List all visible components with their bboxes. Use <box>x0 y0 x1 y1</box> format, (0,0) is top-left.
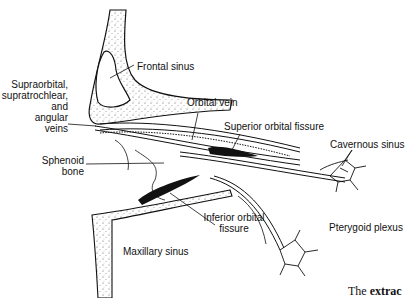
pterygoid-plexus-network <box>280 230 318 276</box>
label-inferior-orbital-fissure: Inferior orbital fissure <box>198 212 270 234</box>
figure-caption: The extrac <box>348 284 402 298</box>
maxilla <box>92 190 232 298</box>
label-sphenoid-bone: Sphenoid bone <box>30 155 84 177</box>
label-pterygoid-plexus: Pterygoid plexus <box>329 222 403 233</box>
label-cavernous-sinus: Cavernous sinus <box>330 139 404 150</box>
label-supraorbital-veins: Supraorbital, supratrochlear, and angula… <box>0 79 68 134</box>
label-orbital-vein: Orbital vein <box>187 97 238 108</box>
label-frontal-sinus: Frontal sinus <box>137 61 194 72</box>
label-maxillary-sinus: Maxillary sinus <box>123 246 189 257</box>
cavernous-sinus-plexus <box>320 150 366 192</box>
label-superior-orbital-fissure: Superior orbital fissure <box>224 121 324 132</box>
